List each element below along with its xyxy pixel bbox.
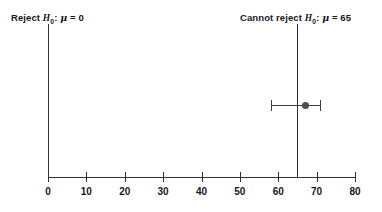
reject-null-prefix: Reject <box>11 12 43 23</box>
x-axis-tick-label: 0 <box>35 186 61 197</box>
x-axis-tick <box>125 172 126 182</box>
x-axis-tick-label: 60 <box>265 186 291 197</box>
hypothesis-test-confidence-interval-figure: Reject H0: μ = 0 Cannot reject H0: μ = 6… <box>0 0 382 212</box>
confidence-interval-upper-cap <box>320 100 321 111</box>
x-axis-tick <box>317 172 318 182</box>
x-axis-tick-label: 10 <box>73 186 99 197</box>
x-axis-tick-label: 30 <box>150 186 176 197</box>
reject-null-equals: = <box>67 12 78 23</box>
x-axis-tick <box>355 172 356 182</box>
x-axis-tick <box>202 172 203 182</box>
alternative-hypothesis-reference-line <box>297 24 298 177</box>
x-axis-tick-label: 50 <box>227 186 253 197</box>
x-axis-tick <box>240 172 241 182</box>
x-axis-tick-label: 80 <box>342 186 368 197</box>
x-axis-tick-label: 40 <box>189 186 215 197</box>
reject-null-value: 0 <box>78 12 83 23</box>
x-axis-tick-label: 20 <box>112 186 138 197</box>
point-estimate-marker <box>302 102 309 109</box>
reject-null-label: Reject H0: μ = 0 <box>11 12 84 25</box>
x-axis-tick-label: 70 <box>304 186 330 197</box>
null-hypothesis-reference-line <box>48 24 49 177</box>
confidence-interval-lower-cap <box>271 100 272 111</box>
cannot-reject-null-label: Cannot reject H0: μ = 65 <box>240 12 351 25</box>
cannot-reject-prefix: Cannot reject <box>240 12 305 23</box>
x-axis-tick <box>163 172 164 182</box>
cannot-reject-value: 65 <box>340 12 351 23</box>
x-axis-tick <box>86 172 87 182</box>
x-axis-tick <box>278 172 279 182</box>
confidence-interval-line <box>271 105 321 106</box>
x-axis-tick <box>48 172 49 182</box>
cannot-reject-equals: = <box>329 12 340 23</box>
